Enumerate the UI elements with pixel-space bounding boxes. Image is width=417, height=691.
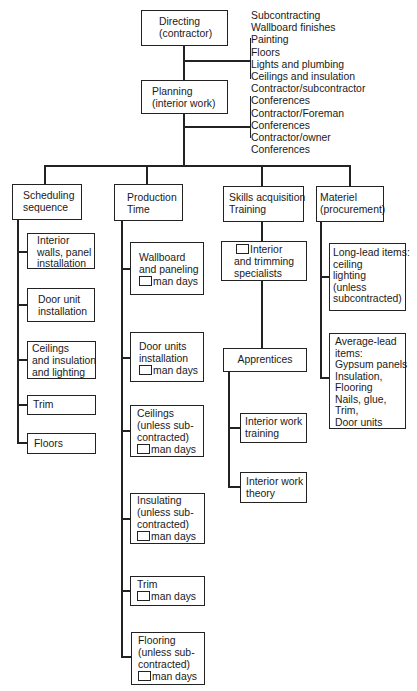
directing-notes-connector (184, 60, 251, 62)
man-days-label: man days (153, 276, 198, 287)
production-item-door-units: Door units installation man days (130, 332, 204, 382)
label: Interior (37, 235, 94, 247)
label: installation (139, 353, 203, 365)
label: Flooring (335, 382, 405, 394)
label: Directing (159, 16, 227, 28)
label: installation (37, 258, 94, 270)
label: Nails, glue, (335, 394, 405, 406)
conn (121, 430, 130, 432)
label: Floors (34, 438, 95, 450)
conn (17, 251, 27, 253)
conn (121, 590, 130, 592)
conn (121, 518, 130, 520)
label: Ceilings (32, 343, 95, 355)
label: Interior (250, 244, 282, 255)
scheduling-item-interior-walls: Interior walls, panel installation (27, 233, 95, 269)
label: training (245, 428, 306, 440)
conn (228, 486, 240, 488)
skills-apprentices-box: Apprentices (223, 348, 307, 372)
label: items: (335, 348, 405, 360)
apprentices-spine (228, 371, 230, 487)
label: and paneling (139, 264, 203, 276)
specialists-count-input[interactable] (236, 244, 249, 254)
man-days-label: man days (151, 444, 196, 455)
label: Door units (335, 417, 405, 429)
drop-materiel (349, 165, 351, 186)
label: Training (229, 204, 303, 216)
label: contracted) (137, 432, 203, 444)
label: walls, panel (37, 247, 94, 259)
label: lighting (333, 270, 405, 282)
note: Ceilings and insulation (251, 71, 365, 83)
label: (unless sub- (137, 420, 203, 432)
label: Gypsum panels (335, 359, 405, 371)
label: Flooring (138, 635, 204, 647)
scheduling-item-trim: Trim (27, 395, 96, 415)
conn (121, 357, 130, 359)
materiel-header-box: Materiel (procurement) (316, 186, 384, 222)
label: (unless sub- (137, 507, 204, 519)
label: and trimming (234, 256, 306, 268)
man-days-input[interactable] (139, 276, 152, 286)
conn (320, 276, 329, 278)
man-days-input[interactable] (137, 591, 150, 601)
materiel-average-lead-box: Average-lead items: Gypsum panels Insula… (329, 333, 406, 429)
scheduling-item-floors: Floors (27, 433, 96, 454)
label: Planning (152, 86, 227, 98)
planning-box: Planning (interior work) (141, 80, 228, 114)
scheduling-item-door-unit: Door unit installation (27, 288, 95, 322)
drop-production (146, 165, 148, 185)
label: (unless (333, 282, 405, 294)
label: Trim (137, 579, 204, 591)
scheduling-item-ceilings: Ceilings and insulation and lighting (27, 341, 96, 379)
note: Lights and plumbing (251, 59, 365, 71)
note: Conferences (251, 120, 365, 132)
production-item-insulating: Insulating (unless sub- contracted) man … (130, 493, 205, 544)
label: Insulation, (335, 371, 405, 383)
label: and lighting (32, 367, 95, 379)
note: Contractor/owner (251, 132, 365, 144)
production-item-flooring: Flooring (unless sub- contracted) man da… (131, 632, 205, 685)
label: Door unit (38, 294, 94, 306)
label: (interior work) (152, 98, 227, 110)
scheduling-header-box: Scheduling sequence (12, 184, 82, 220)
label: Apprentices (224, 354, 306, 366)
label: and insulation (32, 355, 95, 367)
conn (121, 268, 130, 270)
man-days-input[interactable] (139, 365, 152, 375)
label: (procurement) (320, 204, 383, 216)
label: Average-lead (335, 336, 405, 348)
label: installation (38, 306, 94, 318)
conn (320, 377, 329, 379)
label: (contractor) (159, 28, 227, 40)
note: Subcontracting (251, 10, 365, 22)
label: Scheduling (23, 190, 81, 202)
label: subcontracted) (333, 293, 405, 305)
conn (17, 304, 27, 306)
planning-notes-connector (184, 126, 251, 128)
branch-bus-line (44, 165, 351, 167)
man-days-input[interactable] (138, 671, 151, 681)
label: Ceilings (137, 408, 203, 420)
skills-stem (261, 221, 263, 241)
materiel-spine (320, 221, 322, 379)
man-days-input[interactable] (137, 531, 150, 541)
man-days-label: man days (153, 365, 198, 376)
apprentice-item-theory: Interior work theory (240, 472, 307, 503)
production-item-ceilings: Ceilings (unless sub- contracted) man da… (130, 405, 204, 457)
conn (17, 404, 27, 406)
label: Trim (33, 399, 95, 411)
label: Door units (139, 341, 203, 353)
specialists-stem (261, 280, 263, 348)
note: Contractor/subcontractor (251, 83, 365, 95)
drop-scheduling (44, 165, 46, 185)
conn (121, 656, 131, 658)
label: contracted) (138, 659, 204, 671)
label: specialists (234, 268, 306, 280)
label: ceiling (333, 259, 405, 271)
label: (unless sub- (138, 647, 204, 659)
label: Long-lead items: (333, 247, 405, 259)
production-item-wallboard: Wallboard and paneling man days (130, 242, 204, 295)
label: Interior work (246, 476, 306, 488)
man-days-input[interactable] (137, 444, 150, 454)
